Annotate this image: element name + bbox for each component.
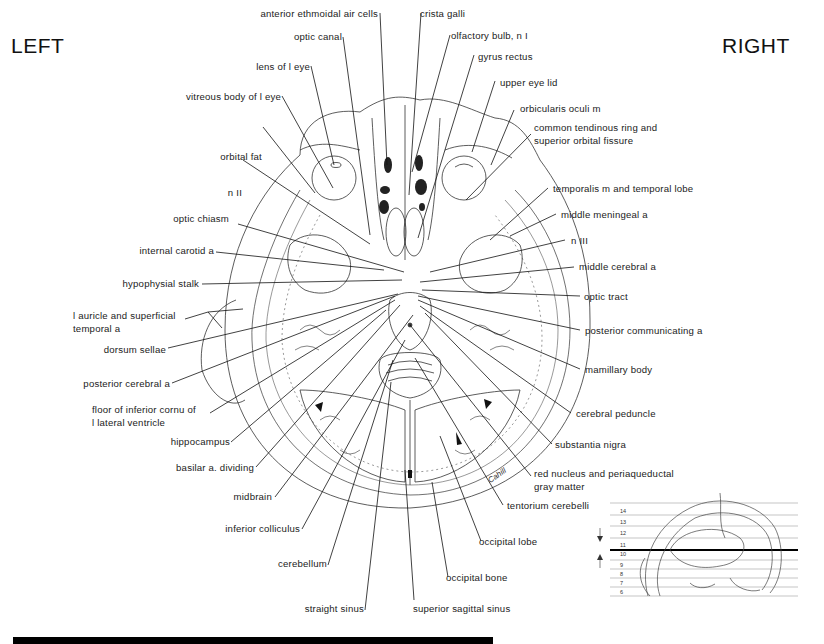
label-posterior-communicating-a: posterior communicating a bbox=[585, 324, 703, 337]
inset-level-10: 10 bbox=[620, 551, 626, 557]
label-floor-inferior-cornu: floor of inferior cornu of l lateral ven… bbox=[92, 403, 196, 429]
head-outline bbox=[225, 97, 590, 508]
label-dorsum-sellae: dorsum sellae bbox=[90, 343, 166, 356]
label-tentorium-cerebelli: tentorium cerebelli bbox=[507, 499, 589, 512]
inset-level-6: 6 bbox=[620, 589, 623, 595]
right-eye bbox=[442, 156, 486, 200]
label-straight-sinus: straight sinus bbox=[290, 602, 364, 615]
label-superior-sagittal-sinus: superior sagittal sinus bbox=[413, 602, 510, 615]
label-internal-carotid-a: internal carotid a bbox=[110, 244, 214, 257]
label-cerebral-peduncle: cerebral peduncle bbox=[576, 407, 656, 420]
inset-level-12: 12 bbox=[620, 530, 626, 536]
label-crista-galli: crista galli bbox=[420, 7, 465, 20]
label-midbrain: midbrain bbox=[200, 490, 272, 503]
inset-level-14: 14 bbox=[620, 508, 626, 514]
bottom-bar bbox=[13, 637, 493, 644]
label-common-tendinous-ring: common tendinous ring and superior orbit… bbox=[534, 121, 657, 147]
label-middle-cerebral-a: middle cerebral a bbox=[579, 260, 656, 273]
inset-level-13: 13 bbox=[620, 519, 626, 525]
inset-level-8: 8 bbox=[620, 571, 623, 577]
label-inferior-colliculus: inferior colliculus bbox=[200, 522, 300, 535]
label-basilar-a-dividing: basilar a. dividing bbox=[150, 461, 254, 474]
label-temporalis-m: temporalis m and temporal lobe bbox=[553, 182, 693, 195]
label-n-iii: n III bbox=[571, 234, 588, 247]
label-occipital-bone: occipital bone bbox=[446, 571, 507, 584]
label-substantia-nigra: substantia nigra bbox=[555, 438, 626, 451]
label-optic-canal: optic canal bbox=[250, 30, 342, 43]
label-mamillary-body: mamillary body bbox=[585, 363, 652, 376]
label-lens-of-l-eye: lens of l eye bbox=[230, 60, 310, 73]
label-upper-eye-lid: upper eye lid bbox=[500, 76, 558, 89]
label-cerebellum: cerebellum bbox=[250, 557, 327, 570]
inset-level-9: 9 bbox=[620, 562, 623, 568]
label-optic-chiasm: optic chiasm bbox=[150, 212, 229, 225]
label-olfactory-bulb: olfactory bulb, n I bbox=[451, 29, 528, 42]
label-posterior-cerebral-a: posterior cerebral a bbox=[60, 377, 170, 390]
label-anterior-ethmoidal-air-cells: anterior ethmoidal air cells bbox=[250, 7, 378, 20]
label-gyrus-rectus: gyrus rectus bbox=[478, 50, 533, 63]
label-l-auricle: l auricle and superficial temporal a bbox=[73, 309, 176, 335]
label-orbital-fat: orbital fat bbox=[200, 150, 262, 163]
label-hypophysial-stalk: hypophysial stalk bbox=[100, 277, 199, 290]
inset-level-7: 7 bbox=[620, 580, 623, 586]
label-optic-tract: optic tract bbox=[584, 290, 628, 303]
label-middle-meningeal-a: middle meningeal a bbox=[561, 208, 648, 221]
label-vitreous-body-of-l-eye: vitreous body of l eye bbox=[160, 90, 281, 103]
label-occipital-lobe: occipital lobe bbox=[479, 535, 537, 548]
label-orbicularis-oculi-m: orbicularis oculi m bbox=[520, 102, 601, 115]
inset-level-11: 11 bbox=[620, 542, 626, 548]
label-hippocampus: hippocampus bbox=[150, 435, 230, 448]
label-n-ii: n II bbox=[200, 186, 242, 199]
